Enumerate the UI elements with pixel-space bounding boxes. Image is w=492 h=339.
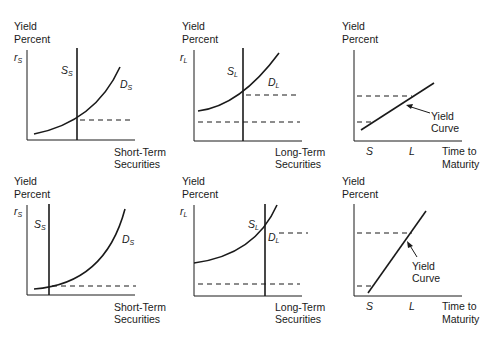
demand-label: DL (268, 231, 280, 244)
y-axis-label-line1: Yield (182, 20, 205, 32)
yield-curve-diagram: Yield Percent rS SS DS Short-Term Securi… (0, 0, 492, 339)
y-axis-label-line1: Yield (14, 175, 37, 187)
supply-label: SS (34, 218, 46, 231)
demand-curve (198, 53, 279, 111)
x-axis-label-line2: Securities (275, 158, 321, 170)
supply-label: SL (227, 65, 238, 78)
demand-curve (34, 209, 125, 289)
x-axis-label-line1: Short-Term (114, 146, 166, 158)
y-axis-label-line2: Percent (14, 33, 50, 45)
x-axis-label-line2: Securities (114, 313, 160, 325)
x-axis-label-line2: Securities (114, 158, 160, 170)
rate-var-label: rL (180, 51, 188, 64)
supply-label: SS (61, 64, 73, 77)
supply-label: SL (248, 218, 259, 231)
x-axis-label-line2: Securities (275, 313, 321, 325)
x-axis-label-line1: Time to (442, 300, 477, 312)
arrow-head-icon (407, 241, 413, 248)
tick-label-short: S (366, 145, 373, 157)
y-axis-label-line1: Yield (14, 20, 37, 32)
x-axis-label-line2: Maturity (442, 158, 480, 170)
panel-top-long-term: Yield Percent rL SL DL Long-Term Securit… (180, 20, 325, 170)
y-axis-label-line1: Yield (342, 20, 365, 32)
tick-label-long: L (409, 300, 415, 312)
yield-curve-line (361, 83, 434, 130)
panel-bottom-short-term: Yield Percent rS SS DS Short-Term Securi… (14, 175, 166, 325)
x-axis-label-line2: Maturity (442, 313, 480, 325)
demand-label: DS (122, 233, 135, 246)
annotation-line1: Yield (431, 110, 454, 122)
tick-label-short: S (366, 300, 373, 312)
panel-bottom-yield-curve: Yield Percent Yield Curve S L Time to Ma… (342, 175, 480, 325)
rate-var-label: rS (14, 205, 23, 218)
x-axis-label-line1: Long-Term (275, 146, 325, 158)
y-axis-label-line1: Yield (182, 175, 205, 187)
x-axis-label-line1: Short-Term (114, 301, 166, 313)
annotation-line1: Yield (412, 260, 435, 272)
x-axis-label-line1: Long-Term (275, 301, 325, 313)
y-axis-label-line2: Percent (342, 188, 378, 200)
y-axis-label-line2: Percent (182, 33, 218, 45)
y-axis-label-line2: Percent (342, 33, 378, 45)
arrow-head-icon (406, 104, 413, 109)
annotation-line2: Curve (412, 272, 440, 284)
panel-top-short-term: Yield Percent rS SS DS Short-Term Securi… (14, 20, 166, 170)
y-axis-label-line2: Percent (14, 188, 50, 200)
y-axis-label-line2: Percent (182, 188, 218, 200)
annotation-line2: Curve (431, 122, 459, 134)
demand-label: DS (120, 78, 133, 91)
rate-var-label: rL (180, 205, 188, 218)
y-axis-label-line1: Yield (342, 175, 365, 187)
x-axis-label-line1: Time to (442, 145, 477, 157)
demand-label: DL (268, 76, 280, 89)
panel-top-yield-curve: Yield Percent Yield Curve S L Time to Ma… (342, 20, 480, 170)
rate-var-label: rS (14, 51, 23, 64)
panel-bottom-long-term: Yield Percent rL SL DL Long-Term Securit… (180, 175, 325, 325)
tick-label-long: L (409, 145, 415, 157)
